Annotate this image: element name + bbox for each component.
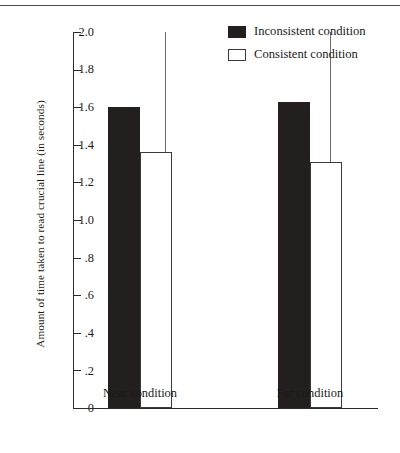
legend-label-consistent: Consistent condition	[254, 47, 358, 62]
y-tick-0-2	[74, 370, 81, 371]
x-label-near: Near condition	[60, 386, 220, 401]
legend-item-inconsistent[interactable]: Inconsistent condition	[228, 21, 366, 42]
x-axis-line	[73, 408, 378, 409]
y-tick-0-4	[74, 333, 81, 334]
y-tick-0-8	[74, 258, 81, 259]
bar-far-inconsistent[interactable]	[278, 102, 310, 408]
bar-far-consistent[interactable]	[310, 162, 342, 408]
y-tick-1-6	[74, 107, 81, 108]
bar-chart-figure: Amount of time taken to read crucial lin…	[0, 0, 400, 453]
plot-area	[73, 32, 378, 408]
y-tick-1-8	[74, 70, 81, 71]
y-tick-1-4	[74, 145, 81, 146]
legend-item-consistent[interactable]: Consistent condition	[228, 44, 366, 65]
x-label-far: Far condition	[230, 386, 390, 401]
bar-near-consistent[interactable]	[140, 152, 172, 408]
bar-near-inconsistent[interactable]	[108, 107, 140, 408]
y-tick-0-6	[74, 295, 81, 296]
legend-label-inconsistent: Inconsistent condition	[254, 24, 366, 39]
y-tick-1-2	[74, 182, 81, 183]
outlined-square-icon	[228, 49, 246, 61]
y-tick-1-0	[74, 220, 81, 221]
chart-legend: Inconsistent condition Consistent condit…	[228, 21, 366, 67]
y-tick-2-0	[74, 32, 81, 33]
filled-square-icon	[228, 26, 246, 38]
